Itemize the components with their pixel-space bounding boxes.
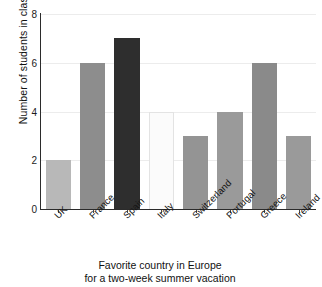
bar-spain [114,38,139,209]
gridline [41,14,316,15]
y-tick-label: 2 [31,155,37,166]
bar-greece [252,63,277,209]
bar-uk [46,160,71,209]
plot-area: 02468 [41,14,316,209]
y-tick-label: 6 [31,57,37,68]
y-tick-label: 4 [31,106,37,117]
bar-italy [149,112,174,210]
chart-caption: Favorite country in Europe for a two-wee… [0,259,320,285]
y-tick-label: 0 [31,204,37,215]
y-tick-label: 8 [31,9,37,20]
caption-line-1: Favorite country in Europe [0,259,320,272]
bar-france [80,63,105,209]
y-axis-title: Number of students in class [17,0,29,143]
caption-line-2: for a two-week summer vacation [0,272,320,285]
